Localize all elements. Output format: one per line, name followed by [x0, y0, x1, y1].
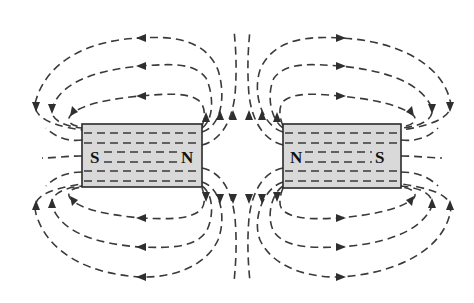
arrow-up-icon: [216, 110, 224, 120]
arrow-down-icon: [216, 194, 224, 204]
arrow-down-icon: [245, 194, 253, 204]
arrow-right-icon: [336, 214, 346, 222]
arrow-down-icon: [48, 104, 56, 114]
arrow-right-icon: [336, 243, 346, 251]
left-magnet-bottom-field-lines: [35, 182, 222, 277]
arrow-right-icon: [336, 92, 346, 100]
left-bar-magnet: S N: [82, 124, 202, 187]
arrow-left-icon: [136, 34, 146, 42]
arrow-up-icon: [428, 198, 436, 208]
arrow-up-right-icon: [406, 196, 414, 206]
arrow-down-icon: [258, 194, 266, 204]
arrow-up-icon: [245, 110, 253, 120]
right-magnet-top-field-lines: [257, 37, 450, 132]
arrow-left-icon: [136, 62, 146, 70]
arrow-right-icon: [336, 273, 346, 281]
left-magnet-pole-n: N: [181, 148, 194, 167]
arrow-down-icon: [428, 104, 436, 114]
left-magnet-top-field-lines: [35, 37, 222, 132]
arrow-down-left-icon: [70, 106, 78, 116]
right-side-field-stubs: [401, 128, 442, 186]
right-magnet-bottom-field-lines: [257, 182, 450, 277]
arrow-right-icon: [336, 34, 346, 42]
right-magnet-pole-s: S: [375, 148, 384, 167]
right-bar-magnet: N S: [283, 124, 401, 188]
arrow-down-icon: [202, 192, 210, 202]
arrow-left-icon: [136, 214, 146, 222]
right-magnet-pole-n: N: [290, 148, 303, 167]
arrow-up-icon: [48, 198, 56, 208]
arrow-up-icon: [32, 200, 40, 210]
arrow-down-icon: [229, 194, 237, 204]
arrow-left-icon: [136, 273, 146, 281]
left-magnet-pole-s: S: [90, 148, 99, 167]
arrow-down-icon: [446, 102, 454, 112]
left-side-field-stubs: [42, 128, 82, 186]
magnetic-field-diagram: S N N S: [0, 0, 474, 303]
center-repulsion-field-lines: [202, 30, 283, 282]
arrow-down-right-icon: [406, 106, 414, 116]
arrow-up-icon: [446, 200, 454, 210]
arrow-up-icon: [258, 110, 266, 120]
arrow-left-icon: [136, 243, 146, 251]
arrow-down-icon: [32, 102, 40, 112]
arrow-left-icon: [136, 92, 146, 100]
arrow-right-icon: [336, 62, 346, 70]
